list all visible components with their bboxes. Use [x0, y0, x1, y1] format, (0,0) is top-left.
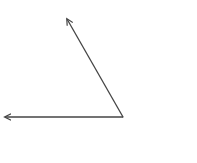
vertex-point	[122, 116, 123, 117]
angle-diagram	[0, 0, 197, 163]
upper-ray-arrow	[67, 19, 123, 117]
